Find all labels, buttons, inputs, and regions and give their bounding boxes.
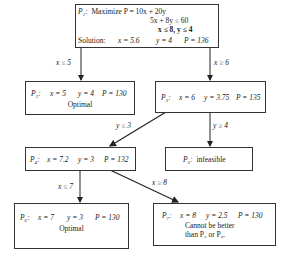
x-value: x = 7 bbox=[38, 213, 54, 222]
node-id: P₁: bbox=[78, 7, 88, 16]
node-id: P₃: bbox=[161, 93, 171, 102]
y-value: y = 4 bbox=[156, 36, 172, 45]
p-value: P = 130 bbox=[102, 89, 127, 98]
edge-label-x-ge-8: x ≥ 8 bbox=[152, 178, 167, 187]
constraint-2: x ≤ 8, y ≤ 4 bbox=[158, 25, 192, 34]
node-id: P₇: bbox=[162, 211, 172, 220]
node-p4: P₄: x = 7.2 y = 3 P = 132 bbox=[25, 147, 136, 171]
p-value: P = 130 bbox=[95, 213, 120, 222]
node-id: P₂: bbox=[31, 89, 41, 98]
x-value: x = 5.6 bbox=[118, 36, 140, 45]
node-p1: P₁: Maximize P = 10x + 20y 5x + 8y ≤ 60 … bbox=[75, 4, 219, 48]
node-id: P₆: bbox=[20, 213, 30, 222]
x-value: x = 7.2 bbox=[47, 155, 69, 164]
objective: Maximize P = 10x + 20y bbox=[91, 7, 166, 16]
p-value: P = 136 bbox=[184, 36, 209, 45]
y-value: y = 2.5 bbox=[206, 211, 228, 220]
y-value: y = 3 bbox=[67, 213, 83, 222]
node-p5: P₅: infeasible bbox=[165, 147, 253, 171]
node-id: P₄: bbox=[30, 155, 40, 164]
node-p2: P₂: x = 5 y = 4 P = 130 Optimal bbox=[25, 81, 135, 115]
constraint-1: 5x + 8y ≤ 60 bbox=[150, 16, 188, 25]
y-value: y = 3 bbox=[78, 155, 94, 164]
node-p7: P₇: x = 8 y = 2.5 P = 130 Cannot be bett… bbox=[153, 203, 276, 246]
solution-label: Solution: bbox=[78, 36, 106, 45]
status-note: Optimal bbox=[26, 100, 134, 109]
note-line-2: than P₂ or P₆. bbox=[185, 230, 225, 239]
p-value: P = 135 bbox=[236, 93, 261, 102]
edge-label-y-ge-4: y ≥ 4 bbox=[213, 121, 228, 130]
node-id: P₅: bbox=[183, 155, 193, 164]
status-note: Optimal bbox=[15, 224, 128, 233]
x-value: x = 6 bbox=[179, 93, 195, 102]
node-p3: P₃: x = 6 y = 3.75 P = 135 bbox=[155, 81, 266, 113]
status-note: infeasible bbox=[196, 155, 225, 164]
p-value: P = 132 bbox=[104, 155, 129, 164]
edge-label-x-le-7: x ≤ 7 bbox=[58, 182, 73, 191]
y-value: y = 4 bbox=[78, 89, 94, 98]
x-value: x = 8 bbox=[180, 211, 196, 220]
p-value: P = 130 bbox=[238, 211, 263, 220]
y-value: y = 3.75 bbox=[204, 93, 229, 102]
node-p6: P₆: x = 7 y = 3 P = 130 Optimal bbox=[14, 203, 129, 249]
edge-label-y-le-3: y ≤ 3 bbox=[116, 121, 131, 130]
x-value: x = 5 bbox=[50, 89, 66, 98]
edge-label-x-ge-6: x ≥ 6 bbox=[214, 58, 229, 67]
note-line-1: Cannot be better bbox=[185, 221, 235, 230]
edge-p4-p7 bbox=[110, 170, 178, 202]
edge-label-x-le-5: x ≤ 5 bbox=[56, 58, 71, 67]
